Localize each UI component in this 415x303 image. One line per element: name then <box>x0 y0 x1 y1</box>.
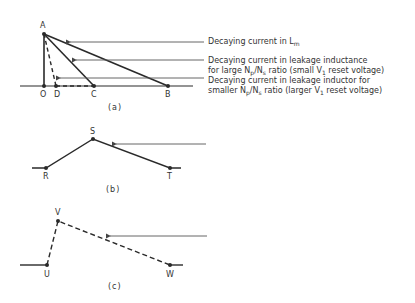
point-label-o: O <box>40 91 46 99</box>
point-label-r: R <box>43 173 49 181</box>
point-label-a: A <box>40 22 45 30</box>
panel-b-waveform <box>32 139 181 168</box>
point-label-w: W <box>166 271 174 279</box>
decay-AD <box>44 34 56 86</box>
annotation-large-ratio-line1: Decaying current in leakage inductance <box>208 57 368 65</box>
point-label-v: V <box>55 209 60 217</box>
panel-c-points <box>45 219 172 267</box>
point-label-s: S <box>90 128 95 136</box>
caption-a: (a) <box>108 104 122 112</box>
panel-b-points <box>44 137 172 170</box>
point-label-c: C <box>91 91 97 99</box>
annotation-small-ratio-line2: smaller Np/Ns ratio (larger V1 reset vol… <box>208 87 382 97</box>
point-label-u: U <box>44 271 50 279</box>
point-label-b: B <box>165 91 171 99</box>
annotation-small-ratio-line1: Decaying current in leakage inductor for <box>208 77 370 85</box>
point-label-t: T <box>167 173 172 181</box>
annotation-lm: Decaying current in Lm <box>208 38 300 48</box>
point-label-d: D <box>54 91 60 99</box>
caption-b: (b) <box>106 186 120 194</box>
panel-c-waveform <box>20 221 183 265</box>
caption-c: (c) <box>108 283 122 291</box>
